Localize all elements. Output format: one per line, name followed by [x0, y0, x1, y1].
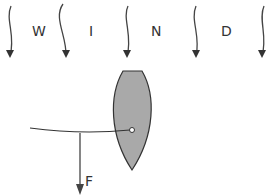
mast-pivot: [130, 128, 135, 133]
wind-letter-w: W: [32, 23, 46, 39]
force-label: F: [85, 173, 93, 189]
wind-letter-i: I: [89, 23, 93, 39]
wind-letter-n: N: [151, 23, 161, 39]
wind-letter-d: D: [221, 23, 232, 39]
wind-arrow-4: [194, 6, 197, 56]
boat-hull: [113, 71, 151, 170]
wind-arrow-1: [9, 6, 12, 56]
wind-arrow-2: [59, 4, 66, 56]
wind-arrow-3: [126, 6, 129, 56]
wind-arrow-5: [262, 6, 264, 56]
